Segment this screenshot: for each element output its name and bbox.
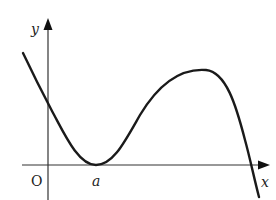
x-axis-label: x [261,174,269,190]
y-axis-label: y [30,21,40,37]
tangent-point-label: a [92,173,100,189]
function-graph-figure: y x O a [0,0,276,200]
graph-svg: y x O a [0,0,276,200]
y-axis-arrow-icon [44,18,53,30]
x-axis-arrow-icon [258,161,270,170]
origin-label: O [31,173,42,189]
function-curve [23,53,259,197]
